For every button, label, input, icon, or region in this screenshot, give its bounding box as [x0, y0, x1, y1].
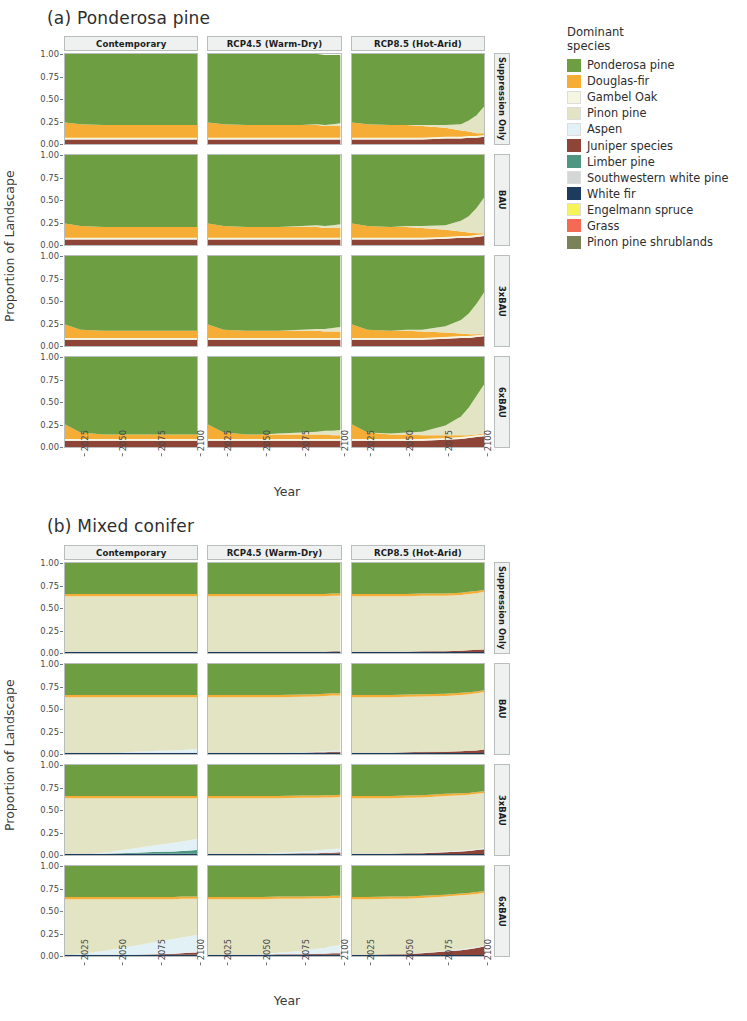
column-strip-label: RCP4.5 (Warm-Dry)	[207, 36, 341, 51]
y-tick-label: 0.75	[40, 682, 59, 692]
facet-row: Suppression Only	[64, 562, 510, 654]
x-tick-label: 2100	[196, 939, 206, 960]
x-tick-label: 2050	[262, 939, 272, 960]
area-series	[65, 338, 197, 340]
y-tick-label: 1.00	[40, 659, 59, 669]
x-tick-label: 2050	[405, 430, 415, 451]
legend-item: Gambel Oak	[567, 89, 747, 105]
y-tick-label: 0.25	[40, 828, 59, 838]
area-series	[208, 866, 340, 897]
facet-plot	[351, 255, 485, 347]
panel-a-title: (a) Ponderosa pine	[47, 8, 210, 28]
facet-plot	[351, 663, 485, 755]
facet-plot	[207, 154, 341, 246]
area-series	[208, 652, 340, 653]
x-tick-label: 2050	[262, 430, 272, 451]
area-series	[65, 138, 197, 140]
area-series	[65, 765, 197, 796]
area-series	[208, 563, 340, 594]
area-series	[208, 140, 340, 145]
strip-corner-spacer	[494, 545, 510, 560]
area-series	[65, 652, 197, 653]
area-series	[208, 238, 340, 240]
facet-plot	[207, 53, 341, 145]
legend-title: Dominant species	[567, 26, 747, 53]
facet-plot	[351, 53, 485, 145]
area-series	[65, 340, 197, 346]
x-axis-column: 2025205020752100	[351, 935, 485, 991]
x-tick-label: 2075	[444, 430, 454, 451]
x-tick-label: 2100	[483, 430, 493, 451]
area-series	[352, 866, 484, 897]
stacked-area-plot	[65, 563, 197, 653]
legend-item-label: Limber pine	[587, 155, 655, 169]
y-tick-label: 1.00	[40, 251, 59, 261]
stacked-area-plot	[65, 256, 197, 346]
legend-swatch-icon	[567, 91, 581, 104]
legend-swatch-icon	[567, 155, 581, 168]
y-tick-label: 0.75	[40, 375, 59, 385]
y-tick-label: 0.00	[40, 749, 59, 759]
legend-item: Ponderosa pine	[567, 57, 747, 73]
y-tick-label: 0.00	[40, 850, 59, 860]
y-tick-label: 0.00	[40, 139, 59, 149]
y-tick-label: 0.75	[40, 173, 59, 183]
stacked-area-plot	[65, 765, 197, 855]
legend-swatch-icon	[567, 236, 581, 249]
facet-row: BAU	[64, 663, 510, 755]
legend-swatch-icon	[567, 187, 581, 200]
x-tick-label: 2075	[157, 939, 167, 960]
facet-grid-b: ContemporaryRCP4.5 (Warm-Dry)RCP8.5 (Hot…	[64, 545, 510, 966]
legend-item: Limber pine	[567, 154, 747, 170]
legend-item-label: Southwestern white pine	[587, 171, 729, 185]
area-series	[352, 793, 484, 854]
legend-item-label: Douglas-fir	[587, 74, 649, 88]
y-tick-label: 0.00	[40, 951, 59, 961]
x-tick-label: 2025	[366, 939, 376, 960]
area-series	[352, 664, 484, 695]
x-tick-label: 2050	[405, 939, 415, 960]
column-strip-label: RCP8.5 (Hot-Arid)	[351, 545, 485, 560]
area-series	[208, 338, 340, 340]
strip-corner-spacer	[494, 36, 510, 51]
y-tick-label: 0.50	[40, 296, 59, 306]
stacked-area-plot	[208, 664, 340, 754]
x-tick-label: 2050	[118, 430, 128, 451]
area-series	[208, 54, 340, 125]
y-tick-label: 0.75	[40, 274, 59, 284]
y-tick-label: 0.50	[40, 906, 59, 916]
legend-swatch-icon	[567, 123, 581, 136]
x-tick-label: 2025	[366, 430, 376, 451]
stacked-area-plot	[208, 765, 340, 855]
y-tick-label: 0.25	[40, 727, 59, 737]
panel-b-title: (b) Mixed conifer	[47, 516, 194, 536]
y-tick-label: 0.50	[40, 94, 59, 104]
legend-item: Pinon pine	[567, 105, 747, 121]
y-tick-label: 1.00	[40, 49, 59, 59]
area-series	[208, 256, 340, 331]
row-strip-label: Suppression Only	[494, 53, 510, 145]
column-strip-row: ContemporaryRCP4.5 (Warm-Dry)RCP8.5 (Hot…	[64, 36, 510, 51]
legend-item-label: Ponderosa pine	[587, 58, 674, 72]
facet-plot	[64, 255, 198, 347]
facet-row: Suppression Only	[64, 53, 510, 145]
y-tick-label: 1.00	[40, 150, 59, 160]
legend-title-line2: species	[567, 40, 747, 54]
legend-swatch-icon	[567, 171, 581, 184]
x-tick-label: 2025	[223, 939, 233, 960]
legend-item: Aspen	[567, 121, 747, 137]
area-series	[352, 692, 484, 753]
legend-item-label: Gambel Oak	[587, 90, 657, 104]
area-series	[65, 695, 197, 697]
area-series	[208, 357, 340, 434]
x-tick-label: 2025	[80, 939, 90, 960]
y-tick-label: 1.00	[40, 760, 59, 770]
area-series	[208, 340, 340, 346]
legend-item-label: Pinon pine shrublands	[587, 235, 713, 249]
area-series	[65, 140, 197, 145]
legend-item: Pinon pine shrublands	[567, 234, 747, 250]
row-strip-label: BAU	[494, 663, 510, 755]
y-tick-label: 1.00	[40, 861, 59, 871]
legend-item: Juniper species	[567, 137, 747, 153]
legend-item: Engelmann spruce	[567, 202, 747, 218]
